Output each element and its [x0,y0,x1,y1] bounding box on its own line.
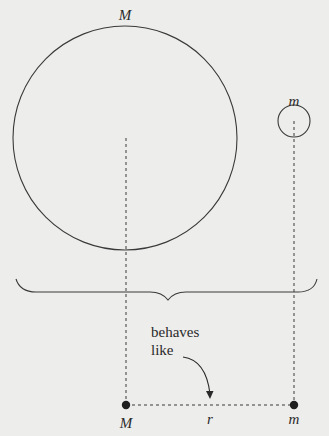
large-body-group: M [13,7,237,250]
point-mass-m-dot [290,401,298,409]
annotation-line-2: like [151,342,174,358]
small-body-group: m [278,93,310,137]
behaves-like-annotation: behaves like [151,324,199,358]
arrowhead-icon [206,391,214,399]
point-mass-system: M r m [119,401,300,431]
annotation-line-1: behaves [151,324,199,340]
point-mass-m-label: m [289,411,300,427]
curly-brace [16,279,317,300]
separation-r-label: r [207,411,213,427]
point-mass-M-label: M [119,415,134,431]
curved-arrow-shaft [183,357,210,394]
curved-arrow [183,357,214,399]
large-body-circle [13,26,237,250]
large-body-label: M [118,7,133,23]
small-body-label: m [289,93,300,109]
gravitation-point-mass-diagram: M m behaves like M r m [0,0,329,436]
point-mass-M-dot [122,401,130,409]
